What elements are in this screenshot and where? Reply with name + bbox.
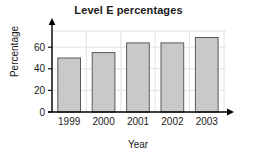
x-axis-arrow-icon xyxy=(227,109,234,116)
y-axis-arrow-icon xyxy=(49,18,56,25)
x-tick-label-2000: 2000 xyxy=(92,116,115,127)
y-axis-ticks: 0204060 xyxy=(34,42,52,118)
x-tick-label-2003: 2003 xyxy=(196,116,219,127)
bar-chart-figure: Level E percentages Percentage Year 0204… xyxy=(0,0,257,160)
x-tick-label-1999: 1999 xyxy=(58,116,81,127)
y-tick-label-20: 20 xyxy=(34,85,46,96)
y-tick-label-0: 0 xyxy=(39,107,45,118)
y-tick-label-60: 60 xyxy=(34,42,46,53)
y-tick-label-40: 40 xyxy=(34,63,46,74)
x-tick-label-2002: 2002 xyxy=(161,116,184,127)
plot-area: 0204060 19992000200120022003 xyxy=(0,0,257,160)
x-tick-label-2001: 2001 xyxy=(127,116,150,127)
bars-series xyxy=(58,38,218,113)
bar-2001 xyxy=(127,43,150,112)
bar-2000 xyxy=(92,53,115,112)
bar-1999 xyxy=(58,58,81,112)
x-axis-ticks: 19992000200120022003 xyxy=(58,116,218,127)
bar-2003 xyxy=(195,38,218,113)
bar-2002 xyxy=(161,43,184,112)
